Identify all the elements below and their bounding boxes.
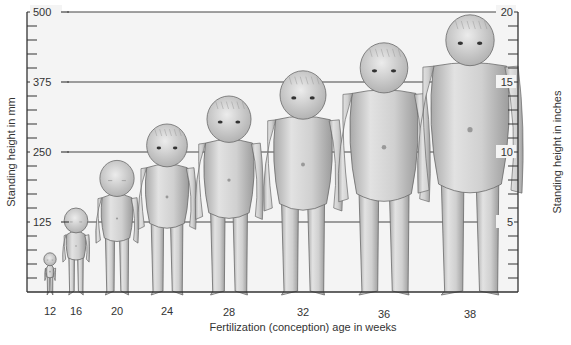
y-tick-label-right: 20 <box>501 6 513 18</box>
head <box>446 15 494 66</box>
y-tick-label-right: 15 <box>501 76 513 88</box>
y-tick-label-right: 10 <box>501 146 513 158</box>
x-axis-title: Fertilization (conception) age in weeks <box>209 321 397 333</box>
head <box>360 43 408 93</box>
head <box>280 71 326 119</box>
x-tick-label: 20 <box>111 305 123 317</box>
y-tick-label-left: 375 <box>33 76 51 88</box>
head <box>147 124 188 167</box>
head <box>100 160 134 196</box>
y-axis-title-left: Standing height in mm <box>5 97 17 206</box>
y-tick-label-left: 250 <box>33 146 51 158</box>
y-tick-label-left: 500 <box>33 6 51 18</box>
x-axis-weeks: 1216202428323638 <box>44 305 476 320</box>
head <box>207 96 251 142</box>
x-tick-label: 36 <box>378 308 390 320</box>
x-tick-label: 16 <box>70 305 82 317</box>
fetal-growth-chart: 125250375500 5101520 1216202428323638 St… <box>0 0 571 345</box>
x-tick-label: 12 <box>44 305 56 317</box>
x-tick-label: 28 <box>223 306 235 318</box>
y-tick-label-right: 5 <box>507 216 513 228</box>
head <box>44 253 56 266</box>
y-tick-label-left: 125 <box>33 216 51 228</box>
x-tick-label: 38 <box>464 308 476 320</box>
x-tick-label: 24 <box>161 305 173 317</box>
head <box>64 208 88 233</box>
y-axis-title-right: Standing height in inches <box>551 90 563 213</box>
x-tick-label: 32 <box>297 306 309 318</box>
